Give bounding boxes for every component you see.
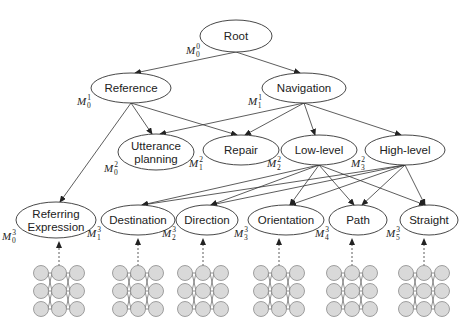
edge-root-to-navigation: [236, 52, 300, 73]
node-repair: RepairM21: [188, 135, 279, 172]
model-label: M10: [76, 93, 91, 110]
model-label: M00: [185, 42, 200, 59]
neuron: [178, 266, 193, 281]
neuron: [178, 284, 193, 299]
neuron: [113, 266, 128, 281]
edge-lowlevel-to-direction: [211, 165, 319, 205]
neural-net-orientation: [254, 239, 305, 317]
neuron: [327, 266, 342, 281]
task-hierarchy-diagram: RootM00ReferenceM10NavigationM11Utteranc…: [0, 0, 472, 330]
node-label: Utterance: [131, 140, 181, 152]
neural-net-path: [327, 239, 378, 317]
edge-reference-to-utterance: [131, 103, 152, 134]
neuron: [214, 302, 229, 317]
neuron: [327, 284, 342, 299]
neuron: [70, 266, 85, 281]
neuron: [363, 266, 378, 281]
neuron: [52, 284, 67, 299]
neuron: [113, 284, 128, 299]
neuron: [214, 284, 229, 299]
node-label: Reference: [104, 82, 157, 94]
model-label: M22: [266, 155, 281, 172]
model-label: M35: [385, 225, 400, 242]
model-label: M11: [247, 93, 262, 110]
node-label: Destination: [109, 214, 167, 226]
neuron: [254, 302, 269, 317]
node-label: Direction: [184, 214, 229, 226]
neuron: [272, 302, 287, 317]
model-label: M21: [188, 155, 203, 172]
neuron: [290, 284, 305, 299]
neuron: [435, 266, 450, 281]
neuron: [34, 284, 49, 299]
neuron: [196, 284, 211, 299]
node-label: Expression: [28, 221, 85, 233]
edge-navigation-to-repair: [245, 103, 304, 135]
neuron: [178, 302, 193, 317]
neuron: [290, 302, 305, 317]
neuron: [52, 266, 67, 281]
model-label: M31: [86, 225, 101, 242]
node-straight: StraightM35: [385, 205, 458, 242]
neuron: [399, 284, 414, 299]
neuron: [363, 302, 378, 317]
neuron: [290, 266, 305, 281]
neural-net-direction: [178, 239, 229, 317]
node-reference: ReferenceM10: [76, 73, 171, 110]
node-label: High-level: [379, 144, 430, 156]
neuron: [327, 302, 342, 317]
node-referring: ReferringExpressionM30: [1, 202, 96, 245]
edge-lowlevel-to-straight: [319, 165, 425, 205]
neuron: [417, 266, 432, 281]
node-label: Root: [224, 30, 249, 42]
edge-navigation-to-highlevel: [304, 103, 401, 135]
neuron: [149, 302, 164, 317]
node-orientation: OrientationM33: [233, 205, 324, 242]
neuron: [196, 302, 211, 317]
model-label: M23: [350, 155, 365, 172]
neuron: [34, 302, 49, 317]
neuron: [345, 266, 360, 281]
neuron: [363, 284, 378, 299]
edge-lowlevel-to-destination: [142, 165, 319, 205]
model-label: M34: [314, 225, 329, 242]
node-label: Path: [346, 214, 370, 226]
neuron: [417, 302, 432, 317]
node-label: Repair: [224, 144, 258, 156]
neuron: [113, 302, 128, 317]
node-path: PathM34: [314, 205, 387, 242]
neuron: [345, 302, 360, 317]
model-label: M30: [1, 228, 16, 245]
diagram-svg: RootM00ReferenceM10NavigationM11Utteranc…: [0, 0, 472, 330]
neuron: [34, 266, 49, 281]
neural-nets-layer: [34, 239, 450, 317]
neuron: [131, 302, 146, 317]
edge-reference-to-repair: [131, 103, 237, 135]
edge-lowlevel-to-path: [319, 165, 354, 205]
edge-navigation-to-lowlevel: [304, 103, 315, 135]
node-root: RootM00: [185, 20, 272, 59]
neuron: [149, 284, 164, 299]
neuron: [345, 284, 360, 299]
node-label: Referring: [32, 208, 79, 220]
neuron: [70, 302, 85, 317]
edge-lowlevel-to-orientation: [290, 165, 319, 205]
neuron: [399, 302, 414, 317]
neuron: [417, 284, 432, 299]
node-utterance: UtteranceplanningM20: [103, 134, 194, 177]
neuron: [272, 284, 287, 299]
edge-highlevel-to-path: [362, 165, 405, 205]
node-label: Low-level: [295, 144, 344, 156]
node-label: Navigation: [277, 82, 331, 94]
model-label: M20: [103, 160, 118, 177]
edge-highlevel-to-destination: [142, 165, 405, 205]
model-label: M33: [233, 225, 248, 242]
node-label: Straight: [409, 214, 449, 226]
neuron: [214, 266, 229, 281]
neuron: [435, 302, 450, 317]
model-label: M32: [161, 225, 176, 242]
node-label: planning: [134, 153, 177, 165]
neuron: [435, 284, 450, 299]
neuron: [131, 284, 146, 299]
neuron: [254, 266, 269, 281]
